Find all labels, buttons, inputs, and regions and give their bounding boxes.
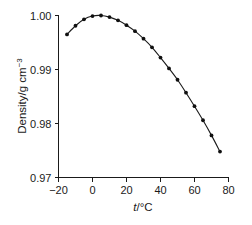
y-axis-title: Density/g cm−3 <box>15 58 28 134</box>
data-point-0 <box>65 33 69 37</box>
x-tick-label-3: 40 <box>154 184 166 196</box>
data-point-7 <box>125 23 129 27</box>
x-axis-tick-labels: −20020406080 <box>49 184 234 196</box>
data-point-14 <box>184 91 188 95</box>
data-point-1 <box>74 24 78 28</box>
data-point-4 <box>99 14 103 18</box>
data-point-6 <box>116 18 120 22</box>
chart-figure: 0.970.980.991.00 −20020406080 t/°C Densi… <box>0 0 252 225</box>
data-markers-group <box>65 14 222 154</box>
y-tick-label-2: 0.99 <box>30 64 51 76</box>
density-temperature-chart: 0.970.980.991.00 −20020406080 t/°C Densi… <box>0 0 252 225</box>
data-point-5 <box>108 15 112 19</box>
chart-ticks <box>55 16 229 182</box>
data-point-8 <box>133 29 137 33</box>
x-tick-label-4: 60 <box>188 184 200 196</box>
density-line <box>67 15 220 151</box>
x-tick-label-0: −20 <box>49 184 68 196</box>
data-point-15 <box>193 104 197 108</box>
y-axis-tick-labels: 0.970.980.991.00 <box>30 10 51 184</box>
data-point-16 <box>201 118 205 122</box>
x-tick-label-5: 80 <box>222 184 234 196</box>
data-point-9 <box>142 37 146 41</box>
data-point-10 <box>150 45 154 49</box>
data-point-13 <box>176 78 180 82</box>
x-tick-label-1: 0 <box>89 184 95 196</box>
y-tick-label-0: 0.97 <box>30 172 51 184</box>
data-point-18 <box>218 150 222 154</box>
data-curve-group <box>67 15 220 151</box>
data-point-11 <box>159 56 163 60</box>
y-tick-label-1: 0.98 <box>30 118 51 130</box>
data-point-3 <box>91 14 95 18</box>
data-point-2 <box>82 17 86 21</box>
data-point-12 <box>167 67 171 71</box>
y-tick-label-3: 1.00 <box>30 10 51 22</box>
data-point-17 <box>210 133 214 137</box>
x-axis-title: t/°C <box>133 201 152 213</box>
x-tick-label-2: 20 <box>120 184 132 196</box>
